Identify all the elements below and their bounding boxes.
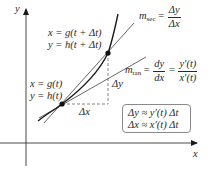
m-symbol: m: [125, 64, 133, 75]
point-at-t-plus-dt: [105, 50, 110, 55]
numerator: dy: [153, 59, 165, 72]
equals-sign: =: [144, 64, 150, 75]
equals-sign: =: [158, 10, 164, 21]
denominator: Δx: [169, 18, 180, 30]
tangent-slope-formula: mtan = dy dx = y′(t) x′(t): [125, 59, 198, 83]
numerator: y′(t): [178, 59, 197, 72]
numerator: Δy: [168, 5, 181, 18]
upper-point-y-eq: y = h(t + Δt): [48, 40, 102, 51]
approximation-box: Δy ≈ y′(t) Δt Δx ≈ x′(t) Δt: [122, 104, 191, 133]
x-axis-label: x: [193, 149, 198, 160]
secant-fraction: Δy Δx: [168, 5, 181, 29]
lower-point-y-eq: y = h(t): [30, 91, 62, 102]
derivative-fraction: dy dx: [153, 59, 165, 83]
denominator: dx: [154, 72, 164, 84]
sec-subscript: sec: [147, 15, 156, 23]
equals-sign: =: [169, 64, 175, 75]
m-symbol: m: [139, 10, 147, 21]
denominator: x′(t): [179, 72, 196, 84]
delta-x-approx: Δx ≈ x′(t) Δt: [128, 120, 178, 131]
upper-point-x-eq: x = g(t + Δt): [48, 28, 102, 39]
delta-y-label: Δy: [112, 79, 123, 90]
tan-subscript: tan: [133, 69, 142, 77]
delta-x-label: Δx: [79, 107, 90, 118]
point-at-t: [59, 101, 64, 106]
lower-point-x-eq: x = g(t): [30, 79, 62, 90]
parametric-derivative-fraction: y′(t) x′(t): [178, 59, 197, 83]
delta-y-approx: Δy ≈ y′(t) Δt: [128, 108, 178, 119]
y-axis-label: y: [15, 4, 20, 15]
secant-slope-formula: msec = Δy Δx: [139, 5, 182, 29]
